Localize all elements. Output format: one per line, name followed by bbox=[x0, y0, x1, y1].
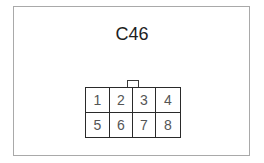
pin-cell: 3 bbox=[133, 88, 156, 113]
pin-cell: 6 bbox=[110, 113, 133, 138]
pin-cell: 5 bbox=[86, 113, 110, 138]
connector-pin-grid: 1 2 3 4 5 6 7 8 bbox=[85, 87, 181, 138]
pin-cell: 7 bbox=[133, 113, 156, 138]
connector-title: C46 bbox=[0, 24, 264, 45]
pin-cell: 8 bbox=[156, 113, 180, 138]
pin-cell: 1 bbox=[86, 88, 110, 113]
pin-cell: 2 bbox=[110, 88, 133, 113]
pin-cell: 4 bbox=[156, 88, 180, 113]
